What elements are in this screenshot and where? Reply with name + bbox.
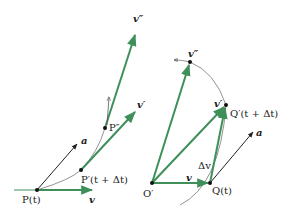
label-Q-prime: Q′(t + Δt)	[230, 108, 278, 119]
velocity-hodograph-diagram: P(t) P′(t + Δt) P″ v a v′ v″ O′ Q(t) Q′(…	[0, 0, 289, 218]
label-P-double: P″	[109, 122, 120, 133]
right-vector-v-double	[152, 65, 189, 183]
diagram-canvas: P(t) P′(t + Δt) P″ v a v′ v″ O′ Q(t) Q′(…	[0, 0, 289, 218]
label-left-v-prime: v′	[137, 99, 146, 110]
label-P-prime: P′(t + Δt)	[81, 174, 128, 185]
point-P-prime	[79, 168, 83, 172]
label-right-v: v	[186, 172, 192, 183]
point-Q-prime	[224, 103, 228, 107]
label-right-v-double: v″	[188, 48, 199, 59]
label-O-prime: O′	[143, 188, 154, 199]
label-left-v: v	[89, 194, 95, 205]
label-right-v-prime: v′	[214, 98, 223, 109]
point-v-double-tip	[188, 60, 192, 64]
label-left-v-double: v″	[133, 13, 144, 24]
label-left-a: a	[81, 135, 87, 146]
point-P-double	[103, 126, 107, 130]
point-P	[35, 188, 39, 192]
point-O-prime	[150, 181, 154, 185]
label-P: P(t)	[22, 194, 41, 205]
label-Q: Q(t)	[212, 185, 232, 196]
label-right-a: a	[256, 127, 262, 138]
label-delta-v: Δv	[198, 160, 211, 171]
left-vector-v-double	[105, 35, 135, 128]
